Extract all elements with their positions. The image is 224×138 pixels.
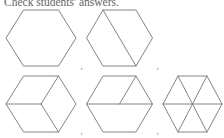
hexagon-5-sixths-triangles [163,76,222,132]
hexagon-cut-center-upper-right [41,76,59,104]
separator-comma-1: , [81,61,83,71]
hexagon-figures: , , , , [0,0,224,138]
hexagon-4-halves-plus-triangles [87,76,153,132]
hexagon-outline [6,10,76,66]
hexagon-1-whole [6,10,76,66]
worksheet-answer-page: Check students' answers. [0,0,224,138]
hexagon-2-halves-diagonal [87,10,153,66]
hexagon-cut-diagonal [103,10,136,66]
hexagon-3-thirds-cube [6,76,76,132]
separator-comma-3: , [81,126,83,136]
hexagon-cut-center-lower-right [41,104,59,132]
separator-comma-2: , [157,61,159,71]
separator-comma-4: , [157,126,159,136]
hexagon-cut-center-upper-right [120,76,137,104]
